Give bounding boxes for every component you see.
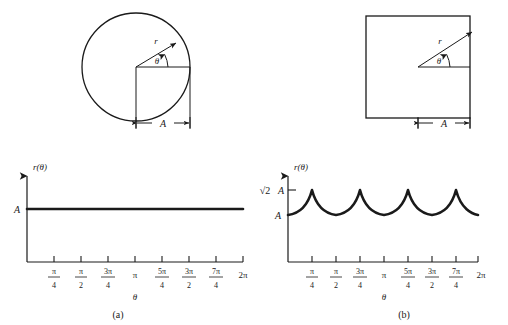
plot-a-tick-1-den: 2 (79, 281, 83, 290)
plot-a-tick-5-num: 3π (185, 267, 193, 276)
plot-b-tick-3-whole: π (382, 270, 387, 280)
circle-angle-label: θ (155, 56, 160, 66)
plot-b-peak-label-radical: √2 (260, 185, 271, 196)
plot-a-y-level-label: A (13, 204, 21, 215)
plot-b-tick-0-den: 4 (310, 281, 314, 290)
plot-b: r(θ) √2 A A π 4 π 2 3π 4 (260, 162, 486, 321)
plot-a-tick-4-den: 4 (160, 281, 164, 290)
plot-b-tick-7-whole: 2π (476, 270, 486, 280)
plot-a-tick-6-num: 7π (212, 267, 220, 276)
circle-dimension-label: A (159, 118, 167, 129)
plot-a-tick-4-num: 5π (158, 267, 166, 276)
plot-b-tick-5-den: 2 (430, 281, 434, 290)
circle-aperture: r θ A (82, 13, 190, 129)
plot-a: r(θ) A π 4 π 2 3π 4 π 5π (13, 162, 248, 321)
plot-a-x-axis-label: θ (133, 292, 138, 302)
caption-b: (b) (398, 309, 410, 321)
plot-a-tick-7-whole: 2π (238, 270, 248, 280)
plot-b-tick-5-num: 3π (428, 267, 436, 276)
plot-a-tick-0-den: 4 (52, 281, 56, 290)
plot-b-tick-4-num: 5π (404, 267, 412, 276)
plot-a-tick-labels: π 4 π 2 3π 4 π 5π 4 3π 2 7π 4 2π (48, 267, 248, 290)
plot-a-tick-2-den: 4 (106, 281, 110, 290)
caption-a: (a) (112, 309, 123, 321)
plot-a-tick-1-num: π (79, 267, 83, 276)
square-radius-arrow (418, 32, 472, 67)
plot-b-tick-labels: π 4 π 2 3π 4 π 5π 4 3π 2 7π 4 2π (306, 267, 486, 290)
square-aperture: r θ A (366, 16, 472, 129)
plot-a-x-ticks (54, 256, 243, 262)
plot-a-y-axis-label: r(θ) (33, 162, 47, 172)
plot-b-tick-1-num: π (334, 267, 338, 276)
plot-b-tick-2-den: 4 (358, 281, 362, 290)
plot-b-y-level-label: A (274, 210, 282, 221)
square-angle-label: θ (437, 56, 442, 66)
plot-b-y-axis-label: r(θ) (294, 162, 308, 172)
plot-a-tick-5-den: 2 (187, 281, 191, 290)
plot-b-tick-0-num: π (310, 267, 314, 276)
figure-root: r θ A r θ A r(θ) A (0, 0, 508, 325)
plot-a-tick-2-num: 3π (104, 267, 112, 276)
plot-b-x-axis-label: θ (382, 292, 387, 302)
circle-radius-label: r (154, 36, 158, 46)
plot-a-tick-6-den: 4 (214, 281, 218, 290)
plot-b-tick-6-den: 4 (454, 281, 458, 290)
square-dimension-label: A (440, 118, 448, 129)
plot-b-peak-label-letter: A (277, 185, 285, 196)
plot-b-x-ticks (312, 256, 478, 262)
square-radius-label: r (438, 36, 442, 46)
circle-angle-arc (165, 54, 168, 67)
plot-b-tick-6-num: 7π (452, 267, 460, 276)
square-angle-arc (447, 54, 450, 67)
plot-a-tick-3-whole: π (133, 270, 138, 280)
plot-b-tick-1-den: 2 (334, 281, 338, 290)
plot-b-curve (288, 190, 478, 215)
plot-a-tick-0-num: π (52, 267, 56, 276)
plot-b-tick-4-den: 4 (406, 281, 410, 290)
plot-b-tick-2-num: 3π (356, 267, 364, 276)
